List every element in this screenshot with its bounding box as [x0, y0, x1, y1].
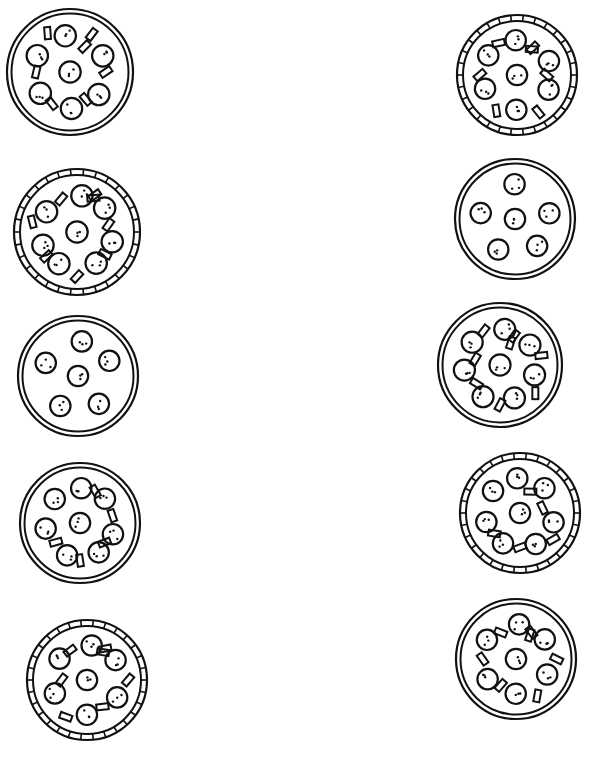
- crimp-mark: [537, 456, 539, 462]
- pepperoni-icon: [57, 545, 77, 565]
- crimp-mark: [123, 720, 127, 724]
- crimp-mark: [462, 97, 467, 99]
- crimp-mark: [131, 645, 136, 649]
- pepperoni-icon: [77, 670, 97, 690]
- pepperoni-icon: [504, 174, 524, 194]
- pepper-icon: [550, 654, 563, 665]
- pepper-icon: [78, 40, 91, 53]
- pepper-icon: [477, 652, 489, 665]
- crimp-mark: [564, 545, 569, 549]
- crimp-mark: [523, 15, 524, 21]
- pizza-left-2[interactable]: [8, 163, 146, 301]
- pizza-left-5[interactable]: [21, 614, 153, 746]
- crimp-mark: [511, 129, 512, 135]
- pepper-icon: [86, 28, 98, 41]
- crimp-mark: [480, 468, 484, 472]
- crimp-mark: [553, 30, 557, 34]
- crimp-mark: [487, 23, 490, 28]
- pepper-icon: [478, 324, 490, 337]
- crimp-mark: [83, 169, 84, 175]
- crimp-mark: [83, 289, 84, 295]
- crimp-mark: [561, 107, 566, 111]
- pepperoni-icon: [102, 231, 123, 252]
- crimp-mark: [115, 185, 119, 189]
- crimp-mark: [114, 628, 117, 633]
- pepperoni-icon: [506, 684, 526, 704]
- pepperoni-icon: [507, 468, 527, 488]
- pepper-icon: [495, 398, 506, 411]
- crimp-mark: [38, 645, 43, 649]
- pepper-icon: [46, 97, 58, 110]
- pepperoni-icon: [49, 648, 69, 668]
- crimp-mark: [544, 122, 547, 127]
- pepperoni-icon: [507, 65, 527, 85]
- crimp-mark: [477, 30, 481, 34]
- pepperoni-icon: [77, 705, 97, 725]
- pepper-icon: [546, 534, 559, 545]
- pepperoni-icon: [476, 512, 496, 532]
- pepperoni-icon: [35, 518, 55, 538]
- pepperoni-icon: [539, 51, 559, 71]
- pepperoni-icon: [524, 364, 545, 385]
- pepper-icon: [103, 218, 115, 231]
- pepper-icon: [44, 27, 51, 39]
- crimp-mark: [514, 453, 515, 459]
- pizza-right-3[interactable]: [432, 297, 568, 433]
- pepperoni-icon: [506, 649, 526, 669]
- pepperoni-icon: [504, 387, 525, 408]
- crimp-mark: [566, 97, 571, 99]
- pepperoni-icon: [478, 45, 498, 65]
- pepper-icon: [532, 387, 538, 399]
- crimp-mark: [47, 720, 51, 724]
- pepperoni-icon: [505, 209, 525, 229]
- crimp-mark: [544, 23, 547, 28]
- crimp-mark: [106, 281, 109, 286]
- pepperoni-icon: [85, 252, 106, 273]
- pepperoni-icon: [535, 629, 555, 649]
- pepperoni-icon: [68, 366, 88, 386]
- pepper-icon: [63, 645, 76, 657]
- crimp-mark: [465, 535, 470, 537]
- crimp-mark: [526, 567, 527, 573]
- crimp-mark: [114, 727, 117, 732]
- pizza-right-4[interactable]: [454, 447, 586, 579]
- pepper-icon: [98, 249, 111, 260]
- crimp-mark: [498, 18, 500, 24]
- pepper-icon: [532, 105, 544, 118]
- pepperoni-icon: [45, 489, 65, 509]
- pepper-icon: [535, 352, 548, 359]
- crimp-mark: [498, 126, 500, 132]
- pepper-icon: [492, 39, 505, 47]
- crimp-mark: [547, 461, 550, 466]
- pepperoni-icon: [71, 478, 91, 498]
- pepperoni-icon: [506, 30, 526, 50]
- crimp-mark: [70, 169, 71, 175]
- crimp-mark: [534, 126, 536, 132]
- pepper-icon: [470, 378, 483, 389]
- pizza-left-4[interactable]: [14, 457, 146, 589]
- pepperoni-icon: [50, 396, 70, 416]
- crimp-mark: [564, 478, 569, 482]
- pepperoni-icon: [526, 534, 546, 554]
- pizza-right-1[interactable]: [451, 9, 583, 141]
- pepper-icon: [71, 270, 84, 283]
- pepper-icon: [537, 501, 548, 514]
- crimp-mark: [129, 255, 134, 257]
- crimp-mark: [19, 255, 24, 257]
- pepperoni-icon: [92, 45, 113, 66]
- pepperoni-icon: [70, 513, 90, 533]
- crimp-mark: [95, 286, 97, 292]
- pepperoni-icon: [454, 360, 475, 381]
- pizza-right-5[interactable]: [450, 593, 582, 725]
- pizza-right-2[interactable]: [449, 153, 581, 285]
- pepperoni-icon: [66, 221, 87, 242]
- pepperoni-icon: [527, 236, 547, 256]
- pepperoni-icon: [72, 331, 92, 351]
- crimp-mark: [19, 206, 24, 208]
- pepperoni-icon: [99, 351, 119, 371]
- crimp-mark: [136, 656, 141, 658]
- pepper-icon: [55, 193, 67, 206]
- pizza-left-3[interactable]: [12, 310, 144, 442]
- crimp-mark: [57, 727, 60, 732]
- pizza-left-1[interactable]: [1, 3, 139, 141]
